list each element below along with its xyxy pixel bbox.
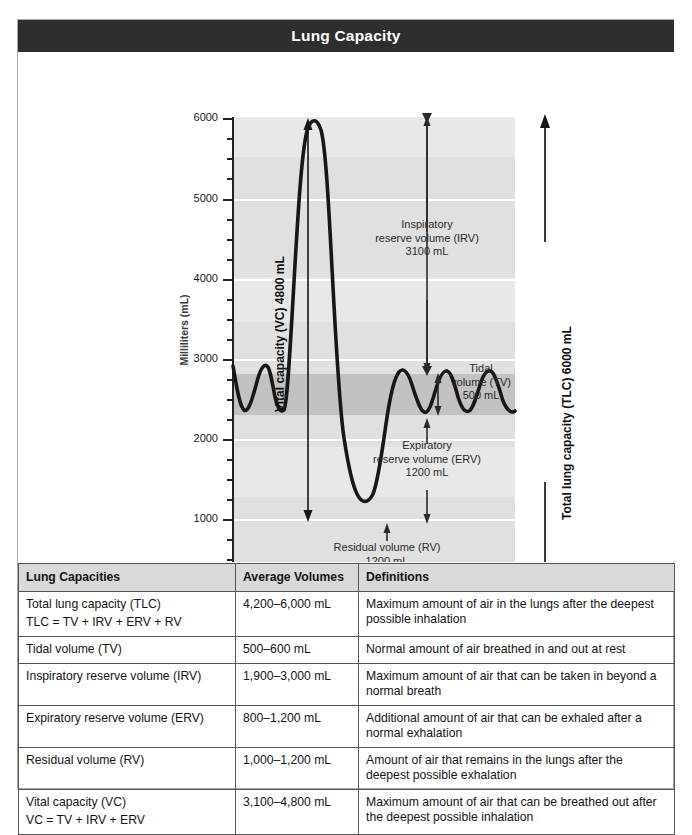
capacity-name: Residual volume (RV) [26,753,228,768]
erv-line2: reserve volume (ERV) [347,453,507,467]
column-header-capacities: Lung Capacities [19,564,236,592]
table-row: Expiratory reserve volume (ERV) 800–1,20… [19,706,675,748]
cell-definition: Normal amount of air breathed in and out… [359,637,675,664]
cell-definition: Maximum amount of air in the lungs after… [359,592,675,637]
erv-annotation: Expiratory reserve volume (ERV) 1200 mL [347,439,507,480]
table-header-row: Lung Capacities Average Volumes Definiti… [19,564,675,592]
lung-capacities-table-wrapper: Lung Capacities Average Volumes Definiti… [18,563,674,835]
irv-line2: reserve volume (IRV) [347,232,507,246]
irv-line3: 3100 mL [347,245,507,259]
tv-line2: volume (TV) [448,376,514,390]
table-row: Vital capacity (VC) VC = TV + IRV + ERV … [19,790,675,835]
capacity-name: Vital capacity (VC) [26,795,228,810]
column-header-volumes: Average Volumes [236,564,359,592]
irv-line1: Inspiratory [347,218,507,232]
capacity-formula: VC = TV + IRV + ERV [26,813,228,828]
erv-line1: Expiratory [347,439,507,453]
tv-annotation: Tidal volume (TV) 500 mL [448,362,514,403]
tv-line3: 500 mL [448,389,514,403]
cell-volume: 1,000–1,200 mL [236,748,359,790]
spirogram-chart: 6000 5000 4000 3000 2000 1000 0 Millilit… [18,52,674,562]
tlc-label: Total lung capacity (TLC) 6000 mL [560,326,574,520]
cell-capacity: Vital capacity (VC) VC = TV + IRV + ERV [19,790,236,835]
cell-volume: 800–1,200 mL [236,706,359,748]
irv-annotation: Inspiratory reserve volume (IRV) 3100 mL [347,218,507,259]
cell-volume: 500–600 mL [236,637,359,664]
lung-capacities-table: Lung Capacities Average Volumes Definiti… [18,563,675,835]
figure-title-banner: Lung Capacity [18,20,674,52]
cell-volume: 4,200–6,000 mL [236,592,359,637]
rv-annotation: Residual volume (RV) 1200 mL [307,541,467,562]
table-row: Inspiratory reserve volume (IRV) 1,900–3… [19,664,675,706]
table-row: Residual volume (RV) 1,000–1,200 mL Amou… [19,748,675,790]
capacity-name: Total lung capacity (TLC) [26,597,228,612]
rv-line2: 1200 mL [307,555,467,563]
cell-definition: Maximum amount of air that can be taken … [359,664,675,706]
spirogram-curve [18,52,674,562]
erv-line3: 1200 mL [347,466,507,480]
rv-line1: Residual volume (RV) [307,541,467,555]
vc-label: Vital capacity (VC) 4800 mL [273,256,287,412]
cell-capacity: Tidal volume (TV) [19,637,236,664]
cell-definition: Amount of air that remains in the lungs … [359,748,675,790]
page-title: Lung Capacity [291,27,400,45]
cell-capacity: Inspiratory reserve volume (IRV) [19,664,236,706]
capacity-formula: TLC = TV + IRV + ERV + RV [26,615,228,630]
cell-definition: Maximum amount of air that can be breath… [359,790,675,835]
tv-line1: Tidal [448,362,514,376]
cell-capacity: Total lung capacity (TLC) TLC = TV + IRV… [19,592,236,637]
cell-definition: Additional amount of air that can be exh… [359,706,675,748]
cell-volume: 3,100–4,800 mL [236,790,359,835]
cell-volume: 1,900–3,000 mL [236,664,359,706]
capacity-name: Inspiratory reserve volume (IRV) [26,669,228,684]
cell-capacity: Expiratory reserve volume (ERV) [19,706,236,748]
table-row: Total lung capacity (TLC) TLC = TV + IRV… [19,592,675,637]
capacity-name: Tidal volume (TV) [26,642,228,657]
cell-capacity: Residual volume (RV) [19,748,236,790]
capacity-name: Expiratory reserve volume (ERV) [26,711,228,726]
table-row: Tidal volume (TV) 500–600 mL Normal amou… [19,637,675,664]
column-header-definitions: Definitions [359,564,675,592]
